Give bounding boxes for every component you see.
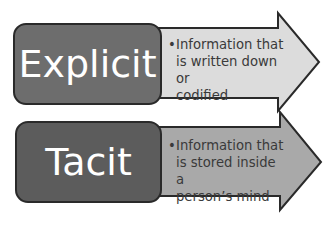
explicit-description: • Information that is written down or co… xyxy=(176,36,286,104)
description-line: person’s mind xyxy=(176,188,286,205)
description-line: codified xyxy=(176,87,286,104)
explicit-label: Explicit xyxy=(14,24,161,104)
tacit-label: Tacit xyxy=(16,122,161,202)
description-line: is written down or xyxy=(176,53,286,87)
tacit-description: • Information that is stored inside a pe… xyxy=(176,137,286,205)
description-line: Information that xyxy=(176,36,286,53)
bullet-icon: • xyxy=(168,137,176,154)
description-line: is stored inside a xyxy=(176,154,286,188)
description-line: Information that xyxy=(176,137,286,154)
explicit-label-text: Explicit xyxy=(18,42,156,86)
tacit-label-text: Tacit xyxy=(45,140,132,184)
bullet-icon: • xyxy=(168,36,176,53)
